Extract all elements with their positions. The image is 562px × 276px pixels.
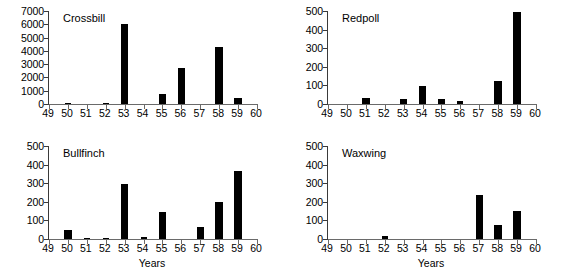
x-tick-label: 49: [321, 107, 332, 119]
x-axis-labels-waxwing: 495051525354555657585960: [327, 242, 535, 256]
x-tick-label: 51: [80, 242, 91, 254]
y-tick-label: 300: [306, 178, 323, 189]
plot-area-bullfinch: Bullfinch: [48, 146, 257, 240]
x-tick-label: 58: [491, 107, 502, 119]
y-tick-mark: [323, 165, 328, 166]
bar: [234, 171, 242, 239]
bar: [159, 212, 167, 239]
x-tick-label: 51: [80, 107, 91, 119]
bar: [215, 47, 223, 104]
x-tick-label: 57: [473, 242, 484, 254]
x-tick-label: 53: [397, 242, 408, 254]
x-tick-label: 57: [194, 242, 205, 254]
x-tick-label: 51: [359, 242, 370, 254]
y-tick-mark: [323, 30, 328, 31]
x-tick-label: 51: [359, 107, 370, 119]
bar: [197, 227, 205, 239]
x-tick-label: 54: [416, 107, 427, 119]
x-axis-labels-redpoll: 495051525354555657585960: [327, 107, 535, 121]
x-tick-label: 59: [510, 242, 521, 254]
bar: [103, 103, 109, 104]
x-tick-label: 57: [194, 107, 205, 119]
x-tick-label: 50: [61, 107, 72, 119]
x-tick-label: 52: [378, 242, 389, 254]
bar: [513, 12, 521, 104]
y-tick-label: 500: [306, 141, 323, 152]
y-tick-label: 100: [27, 215, 44, 226]
y-tick-label: 3000: [21, 59, 44, 70]
x-tick-label: 49: [42, 107, 53, 119]
x-tick-label: 57: [473, 107, 484, 119]
x-axis-title-waxwing: Years: [327, 257, 535, 269]
chart-panel-waxwing: 0100200300400500 Waxwing 495051525354555…: [281, 135, 562, 273]
bar: [362, 98, 370, 104]
y-tick-mark: [44, 64, 49, 65]
x-tick-label: 56: [454, 242, 465, 254]
y-tick-mark: [323, 183, 328, 184]
x-tick-label: 56: [454, 107, 465, 119]
y-tick-label: 300: [27, 178, 44, 189]
x-tick-label: 56: [175, 107, 186, 119]
plot-area-redpoll: Redpoll: [327, 11, 536, 105]
y-tick-mark: [323, 146, 328, 147]
x-axis-labels-crossbill: 495051525354555657585960: [48, 107, 256, 121]
y-tick-mark: [44, 183, 49, 184]
y-axis-labels-redpoll: 0100200300400500: [281, 11, 323, 104]
plot-area-crossbill: Crossbill: [48, 11, 257, 105]
x-tick-label: 54: [137, 107, 148, 119]
y-axis-labels-waxwing: 0100200300400500: [281, 146, 323, 239]
x-tick-label: 58: [491, 242, 502, 254]
y-tick-mark: [323, 220, 328, 221]
bar: [159, 94, 167, 104]
y-tick-mark: [44, 77, 49, 78]
y-tick-mark: [44, 165, 49, 166]
x-tick-label: 59: [231, 107, 242, 119]
x-tick-label: 53: [397, 107, 408, 119]
y-tick-label: 7000: [21, 6, 44, 17]
y-tick-mark: [323, 67, 328, 68]
bar: [84, 238, 90, 239]
y-tick-mark: [44, 24, 49, 25]
chart-panel-redpoll: 0100200300400500 Redpoll 495051525354555…: [281, 0, 562, 138]
x-tick-label: 55: [435, 242, 446, 254]
x-tick-label: 60: [250, 242, 261, 254]
y-tick-mark: [44, 51, 49, 52]
y-tick-mark: [323, 85, 328, 86]
bar: [64, 230, 72, 239]
x-tick-label: 52: [99, 107, 110, 119]
y-axis-labels-crossbill: 01000200030004000500060007000: [0, 11, 44, 104]
x-tick-label: 53: [118, 242, 129, 254]
plot-area-waxwing: Waxwing: [327, 146, 536, 240]
panel-title-bullfinch: Bullfinch: [63, 147, 105, 159]
x-axis-title-bullfinch: Years: [48, 257, 256, 269]
y-tick-label: 200: [306, 197, 323, 208]
y-tick-label: 6000: [21, 19, 44, 30]
y-tick-mark: [44, 11, 49, 12]
x-tick-label: 59: [231, 242, 242, 254]
y-tick-label: 1000: [21, 85, 44, 96]
y-tick-label: 400: [306, 24, 323, 35]
chart-panel-crossbill: 01000200030004000500060007000 Crossbill …: [0, 0, 281, 138]
bar: [141, 237, 147, 239]
bar: [513, 211, 521, 239]
bar: [457, 101, 463, 104]
bar: [438, 99, 446, 104]
bar: [419, 86, 427, 104]
panel-title-waxwing: Waxwing: [342, 147, 386, 159]
x-tick-label: 49: [42, 242, 53, 254]
x-tick-label: 50: [61, 242, 72, 254]
x-tick-label: 55: [156, 242, 167, 254]
bar: [65, 103, 71, 104]
x-tick-label: 53: [118, 107, 129, 119]
y-tick-label: 500: [306, 6, 323, 17]
x-tick-label: 60: [529, 242, 540, 254]
bar: [476, 195, 484, 239]
bar: [382, 236, 388, 239]
bar: [234, 98, 242, 104]
x-tick-label: 52: [99, 242, 110, 254]
bar: [494, 225, 502, 240]
y-tick-label: 100: [306, 215, 323, 226]
x-tick-label: 52: [378, 107, 389, 119]
y-axis-labels-bullfinch: 0100200300400500: [0, 146, 44, 239]
y-tick-label: 300: [306, 43, 323, 54]
